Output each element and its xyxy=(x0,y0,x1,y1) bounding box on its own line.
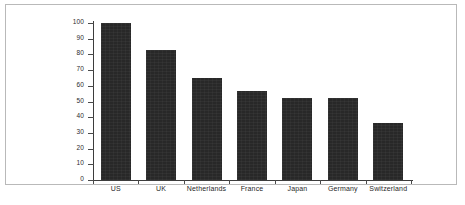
x-axis-tick xyxy=(275,180,276,184)
bar xyxy=(373,123,403,180)
x-axis-category-label: Netherlands xyxy=(184,185,229,192)
x-axis-tick xyxy=(184,180,185,184)
bar xyxy=(101,23,131,180)
x-axis-tick xyxy=(411,180,412,184)
figure-root: 0102030405060708090100 USUKNetherlandsFr… xyxy=(0,0,465,205)
y-axis-tick-label-text: 30 xyxy=(58,129,84,136)
y-axis-tick-label: 10 xyxy=(56,160,84,168)
x-axis-category-label: UK xyxy=(138,185,183,192)
bar xyxy=(282,98,312,180)
y-axis-tick-label: 100 xyxy=(56,19,84,27)
y-axis-tick-label-text: 40 xyxy=(58,113,84,120)
plot-area xyxy=(93,23,411,180)
x-axis-tick xyxy=(93,180,94,184)
y-axis-tick-label: 0 xyxy=(56,176,84,184)
x-axis-tick xyxy=(138,180,139,184)
bar xyxy=(328,98,358,180)
y-axis-tick-label-text: 60 xyxy=(58,82,84,89)
y-axis-tick-label: 60 xyxy=(56,82,84,90)
y-axis-tick-label-text: 70 xyxy=(58,66,84,73)
y-axis-tick-label: 50 xyxy=(56,98,84,106)
y-axis-tick-label-text: 100 xyxy=(58,19,84,26)
x-axis-category-label: Switzerland xyxy=(366,185,411,192)
y-axis-tick-label-text: 80 xyxy=(58,50,84,57)
y-axis-tick-label: 20 xyxy=(56,145,84,153)
y-axis-tick-label-text: 10 xyxy=(58,160,84,167)
y-axis-tick-label-text: 0 xyxy=(58,176,84,183)
x-axis-tick xyxy=(320,180,321,184)
x-axis-category-label: US xyxy=(93,185,138,192)
x-axis-category-label: Germany xyxy=(320,185,365,192)
y-axis-tick-label-text: 20 xyxy=(58,145,84,152)
y-axis-tick-label: 30 xyxy=(56,129,84,137)
y-axis-tick-label: 70 xyxy=(56,66,84,74)
y-axis-tick-label: 40 xyxy=(56,113,84,121)
x-axis-tick xyxy=(229,180,230,184)
x-axis-category-label: Japan xyxy=(275,185,320,192)
bar xyxy=(192,78,222,180)
y-axis-tick-label-text: 90 xyxy=(58,35,84,42)
y-axis-tick-label: 80 xyxy=(56,50,84,58)
x-axis-tick xyxy=(366,180,367,184)
bar xyxy=(146,50,176,180)
y-axis-tick-label-text: 50 xyxy=(58,98,84,105)
chart-frame: 0102030405060708090100 USUKNetherlandsFr… xyxy=(5,4,457,185)
bar xyxy=(237,91,267,180)
y-axis-tick-label: 90 xyxy=(56,35,84,43)
x-axis-category-label: France xyxy=(229,185,274,192)
